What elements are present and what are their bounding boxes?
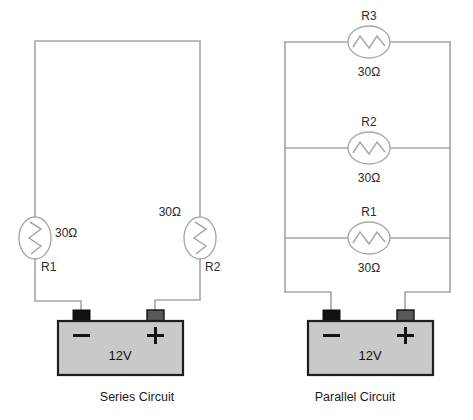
series-R2-name: R2: [205, 260, 221, 274]
parallel-resistor-R2: R2 30Ω: [348, 115, 390, 185]
circuit-diagram: 30Ω R1 30Ω R2 12V Series Circuit: [0, 0, 473, 420]
series-wire-r2-to-positive: [155, 258, 200, 312]
parallel-circuit-group: R3 30Ω R2 30Ω R1 30Ω 12V Parallel Ci: [285, 9, 450, 404]
series-resistor-R2: 30Ω R2: [159, 205, 221, 274]
parallel-R1-name: R1: [361, 205, 377, 219]
series-R1-value: 30Ω: [55, 226, 77, 240]
series-battery-voltage: 12V: [108, 348, 131, 363]
battery-plus-sign-vertical: [404, 327, 407, 344]
parallel-resistor-R3: R3 30Ω: [348, 9, 390, 79]
parallel-battery-voltage: 12V: [358, 348, 381, 363]
battery-plus-sign-vertical: [154, 327, 157, 344]
parallel-R2-name: R2: [361, 115, 377, 129]
parallel-circuit-caption: Parallel Circuit: [315, 390, 396, 404]
series-battery: 12V: [58, 310, 183, 375]
resistor-symbol-outline: [184, 217, 216, 259]
series-main-wire: [35, 41, 200, 220]
series-resistor-R1: 30Ω R1: [19, 217, 77, 274]
series-circuit-caption: Series Circuit: [100, 390, 175, 404]
resistor-symbol-outline: [348, 26, 390, 58]
parallel-R3-value: 30Ω: [358, 65, 380, 79]
parallel-wire-to-positive: [405, 292, 450, 312]
circuit-canvas: 30Ω R1 30Ω R2 12V Series Circuit: [0, 0, 473, 420]
battery-minus-sign: [323, 334, 340, 337]
series-R2-value: 30Ω: [159, 205, 181, 219]
parallel-R1-value: 30Ω: [358, 261, 380, 275]
resistor-symbol-outline: [348, 132, 390, 164]
parallel-resistor-R1: R1 30Ω: [348, 205, 390, 275]
battery-minus-sign: [73, 334, 90, 337]
parallel-battery: 12V: [308, 310, 433, 375]
resistor-symbol-outline: [19, 217, 51, 259]
parallel-R2-value: 30Ω: [358, 171, 380, 185]
series-circuit-group: 30Ω R1 30Ω R2 12V Series Circuit: [19, 41, 221, 404]
resistor-symbol-outline: [348, 222, 390, 254]
series-R1-name: R1: [41, 260, 57, 274]
parallel-R3-name: R3: [361, 9, 377, 23]
